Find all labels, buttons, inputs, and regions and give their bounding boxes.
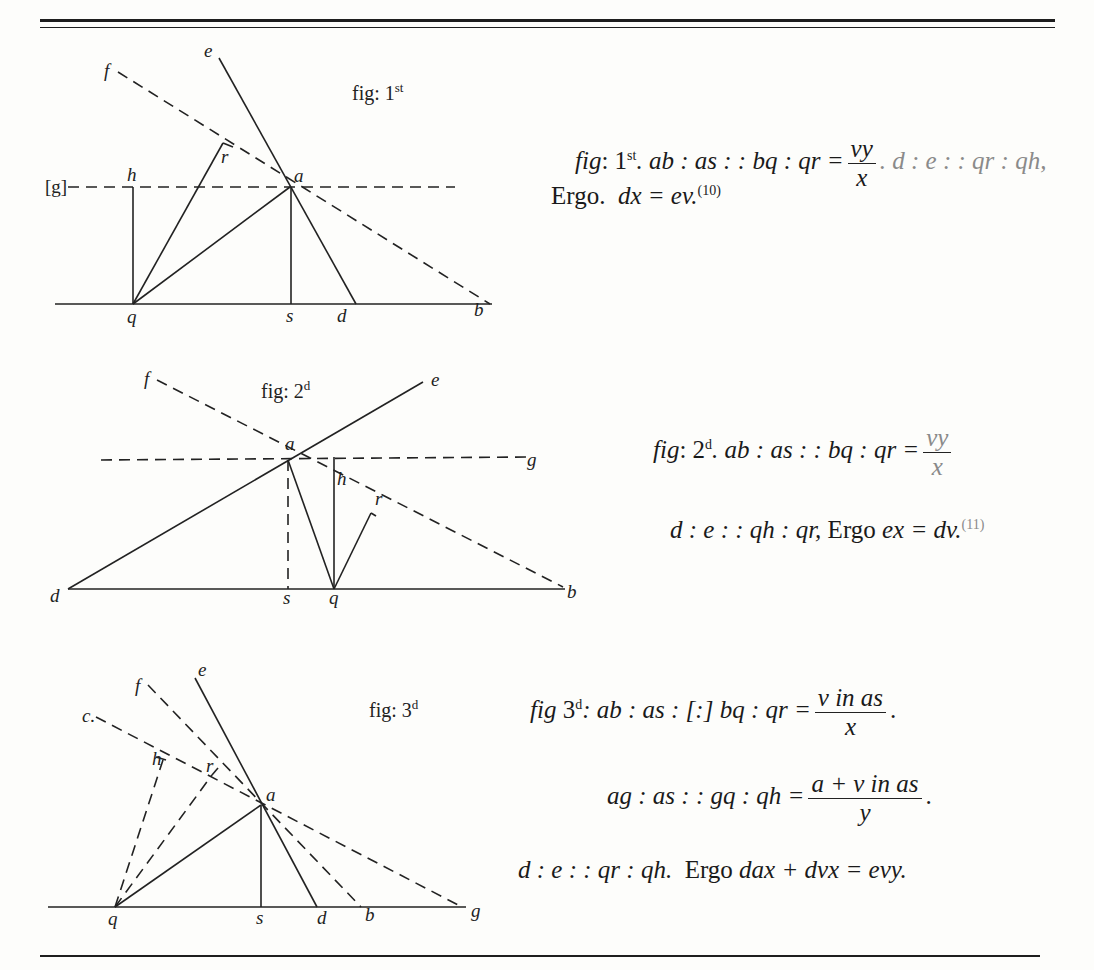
label-a: a [266,784,276,805]
fraction: v in asx [815,684,886,741]
fraction: vyx [923,424,951,481]
label-b: b [567,581,577,602]
fig2-equation-line2: d : e : : qh : qr, Ergo ex = dv.(11) [670,516,984,544]
label-b: b [365,904,375,925]
label-e: e [198,659,206,680]
label-q: q [108,908,118,929]
fraction: a + v in asy [808,770,921,827]
label-s: s [256,907,263,928]
label-c: c. [82,705,95,726]
bottom-rule [40,955,1040,957]
fig3-equation-line3: d : e : : qr : qh. Ergo dax + dvx = evy. [518,856,907,884]
label-g: g [527,449,537,470]
fraction: vyx [848,135,876,192]
label-h: h [152,748,162,769]
label-d: d [317,907,327,928]
fig3-equation-line1: fig 3d: ab : as : [:] bq : qr =v in asx. [530,684,896,741]
figure-3-caption: fig: 3d [369,697,419,722]
label-f: f [135,675,143,696]
figure-3: e f c. h r a q s d b g fig: 3d [0,0,520,930]
label-g: g [471,900,481,921]
fig3-equation-line2: ag : as : : gq : qh =a + v in asy. [607,770,932,827]
label-r: r [206,755,214,776]
fig2-equation-line1: fig: 2d. ab : as : : bq : qr =vyx [653,424,955,481]
